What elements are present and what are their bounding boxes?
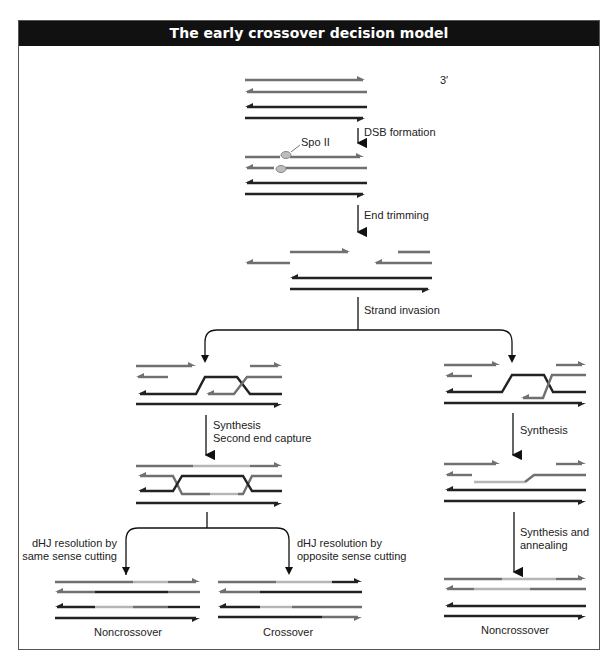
dsb-duplexes	[245, 153, 367, 198]
same-sense-label: dHJ resolution by	[32, 537, 117, 549]
spo11-protein-icon	[281, 152, 291, 159]
outcome-noncrossover-left: Noncrossover	[94, 626, 162, 638]
spo11-label: Spo II	[301, 136, 330, 148]
synthesis-label: Synthesis	[213, 419, 261, 431]
trimmed-duplexes	[245, 248, 432, 293]
right-dloop	[444, 361, 586, 407]
opposite-sense-label-2: opposite sense cutting	[297, 550, 406, 562]
noncrossover-left-product	[55, 578, 200, 622]
outcome-noncrossover-right: Noncrossover	[481, 624, 549, 636]
second-end-capture-label: Second end capture	[213, 432, 311, 444]
synthesis-right-label: Synthesis	[520, 424, 568, 436]
synthesis-annealing-label: Synthesis and	[520, 526, 589, 538]
crossover-product	[218, 578, 362, 621]
opposite-sense-label: dHJ resolution by	[297, 537, 382, 549]
right-synthesis-state	[444, 460, 586, 505]
same-sense-label-2: same sense cutting	[22, 550, 117, 562]
three-prime-label: 3′	[440, 74, 448, 86]
annealing-label: annealing	[520, 539, 568, 551]
spo11-protein-icon	[276, 166, 286, 173]
dsb-formation-label: DSB formation	[364, 126, 436, 138]
intact-duplexes	[245, 76, 367, 122]
branch-resolution	[126, 528, 289, 575]
outcome-crossover: Crossover	[263, 626, 313, 638]
left-dloop	[136, 362, 282, 408]
end-trimming-label: End trimming	[364, 209, 429, 221]
noncrossover-right-product	[444, 575, 586, 620]
double-holliday-junction	[136, 462, 282, 507]
strand-invasion-label: Strand invasion	[364, 304, 440, 316]
branch-invasion	[205, 330, 512, 360]
crossover-diagram: 3′ DSB formation Spo II End trimming Str…	[0, 0, 616, 660]
